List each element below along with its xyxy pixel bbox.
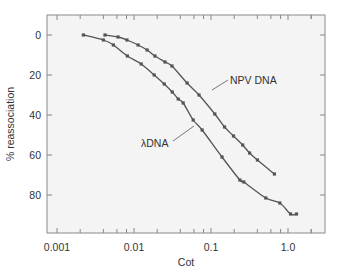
data-point	[153, 54, 156, 57]
reassociation-chart: 0.0010.010.11.0 020406080 NPV DNA λDNA C…	[0, 0, 338, 277]
y-tick-label: 60	[29, 149, 41, 161]
data-point	[238, 178, 241, 181]
data-point	[201, 128, 204, 131]
data-point	[163, 82, 166, 85]
data-point	[182, 101, 185, 104]
y-tick-label: 0	[35, 29, 41, 41]
data-point	[223, 125, 226, 128]
y-tick-label: 80	[29, 189, 41, 201]
x-tick-label: 0.001	[44, 241, 70, 253]
y-tick-label: 40	[29, 109, 41, 121]
x-tick-label: 0.01	[124, 241, 145, 253]
data-point	[248, 151, 251, 154]
npv-dna-label: NPV DNA	[230, 74, 277, 86]
data-point	[192, 118, 195, 121]
data-point	[242, 180, 245, 183]
x-tick-label: 0.1	[204, 241, 219, 253]
data-point	[125, 38, 128, 41]
data-point	[241, 143, 244, 146]
y-axis-tick-labels: 020406080	[29, 29, 41, 201]
data-point	[278, 201, 281, 204]
data-point	[170, 64, 173, 67]
x-axis-tick-labels: 0.0010.010.11.0	[44, 241, 296, 253]
data-point	[112, 43, 115, 46]
data-point	[153, 73, 156, 76]
data-point	[126, 54, 129, 57]
data-point	[102, 38, 105, 41]
data-point	[295, 212, 298, 215]
data-point	[264, 196, 267, 199]
x-axis-title: Cot	[178, 256, 194, 268]
y-tick-label: 20	[29, 69, 41, 81]
data-point	[82, 33, 85, 36]
x-tick-label: 1.0	[281, 241, 296, 253]
data-point	[136, 43, 139, 46]
data-point	[185, 81, 188, 84]
data-point	[197, 93, 200, 96]
data-point	[103, 33, 106, 36]
data-point	[213, 112, 216, 115]
data-point	[116, 35, 119, 38]
data-point	[177, 97, 180, 100]
data-point	[146, 48, 149, 51]
plot-area	[47, 15, 325, 233]
data-point	[171, 90, 174, 93]
lambda-dna-label: λDNA	[141, 137, 168, 149]
data-point	[273, 172, 276, 175]
data-point	[289, 212, 292, 215]
y-axis-title: % reassociation	[4, 87, 16, 161]
data-point	[220, 155, 223, 158]
data-point	[232, 134, 235, 137]
data-point	[256, 158, 259, 161]
data-point	[163, 60, 166, 63]
data-point	[140, 62, 143, 65]
